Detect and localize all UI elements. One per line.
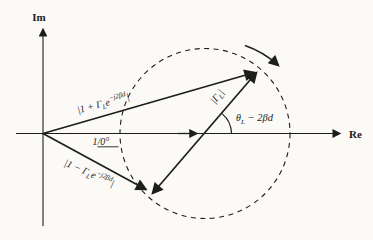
rotation-direction-arrow: [245, 46, 279, 66]
unit-vector-label: 1/0°: [93, 136, 110, 147]
phase-angle-label: θL − 2βd: [236, 112, 274, 126]
phasor-diagram-svg: Im Re |1 + ΓLe−j2βd| |1 − ΓLe−j2βd| 1/0°: [0, 0, 373, 240]
re-axis-label: Re: [349, 128, 362, 140]
im-axis-label: Im: [32, 11, 45, 23]
figure: Im Re |1 + ΓLe−j2βd| |1 − ΓLe−j2βd| 1/0°: [0, 0, 373, 240]
angle-arc: [222, 114, 232, 134]
sum-vector: [43, 73, 255, 134]
gamma-magnitude-label: |ΓL|: [208, 87, 228, 107]
diff-vector-label: |1 − ΓLe−j2βd|: [62, 156, 117, 191]
